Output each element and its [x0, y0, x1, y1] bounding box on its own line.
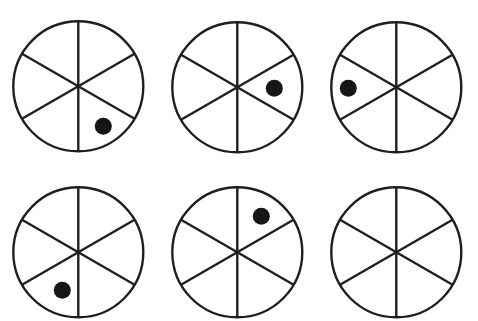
sector-dot [252, 207, 269, 224]
sector-dot [265, 79, 282, 96]
puzzle-canvas [0, 0, 478, 321]
sector-dot [339, 79, 356, 96]
sector-dot [94, 117, 111, 134]
sector-dot [54, 281, 71, 298]
